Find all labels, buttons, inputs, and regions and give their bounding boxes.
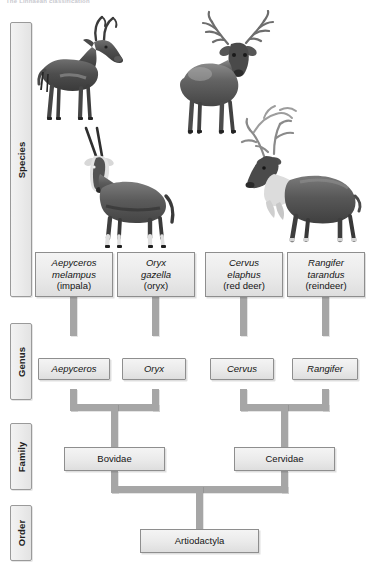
connector-bovidae-stem: [111, 404, 118, 448]
taxon-box-species-oryx-gazella[interactable]: Oryx gazella (oryx): [117, 252, 195, 297]
taxon-box-species-aepyceros-melampus[interactable]: Aepyceros melampus (impala): [35, 252, 113, 297]
species-epithet: elaphus: [227, 269, 260, 281]
genus-name: Cervus: [227, 363, 257, 375]
rank-label-order: Order: [10, 505, 32, 561]
taxon-box-genus-oryx[interactable]: Oryx: [122, 358, 186, 380]
rank-label-genus-text: Genus: [16, 346, 27, 376]
taxonomy-diagram: The Linnaean classification Species Genu…: [0, 0, 366, 564]
family-name: Cervidae: [265, 453, 303, 465]
species-epithet: gazella: [141, 269, 171, 281]
species-common-name: (reindeer): [305, 280, 346, 292]
rank-label-species: Species: [10, 22, 32, 297]
taxon-box-order-artiodactyla[interactable]: Artiodactyla: [140, 529, 259, 553]
species-epithet: tarandus: [308, 269, 345, 281]
connector-species-to-genus-rangifer: [322, 296, 329, 336]
species-genus-name: Rangifer: [308, 257, 344, 269]
species-genus-name: Aepyceros: [52, 257, 97, 269]
taxon-box-species-cervus-elaphus[interactable]: Cervus elaphus (red deer): [205, 252, 283, 297]
species-common-name: (oryx): [144, 280, 168, 292]
animal-image-reindeer: [230, 112, 364, 246]
connector-artiodactyla-stem: [196, 486, 203, 530]
species-genus-name: Cervus: [229, 257, 259, 269]
taxon-box-genus-rangifer[interactable]: Rangifer: [292, 358, 358, 380]
genus-name: Aepyceros: [52, 363, 97, 375]
taxon-box-genus-cervus[interactable]: Cervus: [210, 358, 274, 380]
rank-label-order-text: Order: [16, 520, 27, 546]
animal-image-oryx: [56, 126, 180, 250]
rank-label-species-text: Species: [16, 141, 27, 178]
rank-label-family-text: Family: [16, 441, 27, 472]
taxon-box-genus-aepyceros[interactable]: Aepyceros: [38, 358, 110, 380]
taxon-box-species-rangifer-tarandus[interactable]: Rangifer tarandus (reindeer): [287, 252, 365, 297]
top-caption: The Linnaean classification: [6, 0, 206, 7]
order-name: Artiodactyla: [175, 535, 225, 547]
genus-name: Oryx: [144, 363, 164, 375]
family-name: Bovidae: [97, 453, 131, 465]
animal-image-impala: [34, 14, 146, 126]
connector-species-to-genus-oryx: [152, 296, 159, 336]
rank-label-genus: Genus: [10, 323, 32, 400]
connector-cervidae-stem: [281, 404, 288, 448]
connector-species-to-genus-aepyceros: [70, 296, 77, 336]
species-genus-name: Oryx: [146, 257, 166, 269]
connector-species-to-genus-cervus: [240, 296, 247, 336]
species-epithet: melampus: [52, 269, 96, 281]
taxon-box-family-cervidae[interactable]: Cervidae: [234, 447, 335, 471]
species-common-name: (red deer): [223, 280, 265, 292]
rank-label-family: Family: [10, 423, 32, 490]
taxon-box-family-bovidae[interactable]: Bovidae: [64, 447, 165, 471]
species-common-name: (impala): [57, 280, 91, 292]
genus-name: Rangifer: [307, 363, 343, 375]
